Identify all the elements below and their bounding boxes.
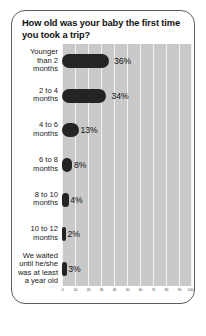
chart-row: We waited until he/she was at least a ye… (12, 251, 192, 286)
chart-row: 2 to 4 months 34% (12, 79, 192, 114)
chart-title: How old was your baby the first time you… (22, 18, 188, 41)
bar (62, 89, 106, 103)
bar (62, 54, 109, 68)
bar-value-label: 13% (81, 125, 98, 135)
x-axis-tick-label: 100 (188, 288, 194, 292)
chart-row: 4 to 6 months 13% (12, 113, 192, 148)
chart-row: Younger than 2 months 36% (12, 44, 192, 79)
x-axis-tick-label: 20 (87, 288, 91, 292)
bar (62, 262, 67, 276)
x-axis-tick-label: 0 (62, 288, 64, 292)
category-label-line: months (8, 165, 58, 174)
x-axis: 0 10 20 30 40 50 60 70 80 90 100 (62, 286, 192, 297)
x-axis-tick-label: 80 (165, 288, 169, 292)
x-axis-tick-label: 50 (126, 288, 130, 292)
category-label: 10 to 12 months (8, 226, 58, 243)
x-axis-tick-label: 70 (152, 288, 156, 292)
chart-row: 8 to 10 months 4% (12, 182, 192, 217)
bar (62, 123, 79, 137)
x-axis-tick-label: 60 (139, 288, 143, 292)
category-label-line: months (8, 130, 58, 139)
bar-value-label: 2% (67, 229, 79, 239)
bar-track: 34% (62, 89, 192, 103)
category-label: 8 to 10 months (8, 191, 58, 208)
chart-row: 10 to 12 months 2% (12, 217, 192, 252)
bar-value-label: 3% (68, 264, 80, 274)
category-label-line: months (8, 200, 58, 209)
x-axis-tick-label: 30 (100, 288, 104, 292)
category-label: 2 to 4 months (8, 87, 58, 104)
bar-track: 2% (62, 227, 192, 241)
category-label-line: months (8, 66, 58, 75)
category-label-line: a year old (8, 277, 58, 286)
category-label: We waited until he/she was at least a ye… (8, 252, 58, 286)
bar-value-label: 36% (114, 56, 131, 66)
category-label-line: months (8, 96, 58, 105)
bar-value-label: 8% (74, 160, 86, 170)
bar (62, 158, 72, 172)
category-label: 4 to 6 months (8, 122, 58, 139)
category-label: Younger than 2 months (8, 48, 58, 74)
x-axis-tick-label: 90 (178, 288, 182, 292)
bar-track: 4% (62, 193, 192, 207)
category-label: 6 to 8 months (8, 156, 58, 173)
x-axis-tick-label: 40 (113, 288, 117, 292)
bar-track: 36% (62, 54, 192, 68)
bar (62, 227, 66, 241)
bar-track: 13% (62, 123, 192, 137)
bar-track: 3% (62, 262, 192, 276)
chart-plot: Younger than 2 months 36% 2 to 4 months … (62, 44, 192, 297)
category-label-line: months (8, 234, 58, 243)
bar-value-label: 34% (111, 91, 128, 101)
chart-row: 6 to 8 months 8% (12, 148, 192, 183)
x-axis-tick-label: 10 (74, 288, 78, 292)
bar-track: 8% (62, 158, 192, 172)
bar (62, 193, 69, 207)
chart-card: How old was your baby the first time you… (11, 10, 195, 304)
bar-value-label: 4% (70, 195, 82, 205)
